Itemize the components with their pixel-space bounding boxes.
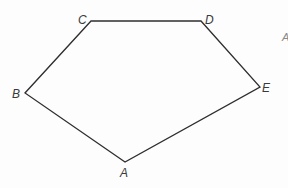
pentagon-outline [25, 21, 260, 162]
vertex-label-e: E [262, 81, 271, 95]
vertex-labels: A B C D E [12, 13, 271, 180]
pentagon-diagram: A B C D E A [0, 0, 288, 188]
vertex-label-d: D [205, 13, 214, 27]
vertex-label-a: A [119, 166, 128, 180]
vertex-label-b: B [12, 87, 20, 101]
vertex-label-c: C [78, 13, 87, 27]
partial-edge-label: A [281, 31, 288, 43]
